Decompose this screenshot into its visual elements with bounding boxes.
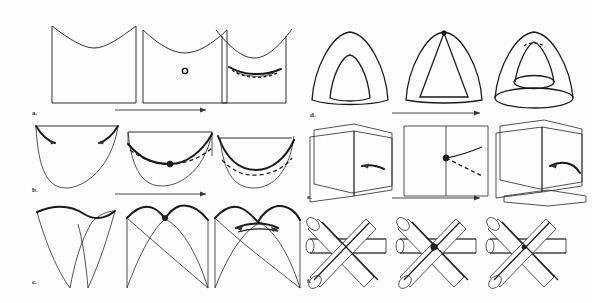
triple-point-node-f3 (522, 245, 526, 249)
panel-f: f. (304, 215, 566, 291)
arrow-b-c (115, 192, 206, 197)
sheet-outline-a1 (52, 26, 136, 103)
front-sheet-left-e3 (496, 127, 542, 198)
inner-base-ellipse-d3 (514, 76, 554, 89)
panel-c-stage-3 (215, 206, 300, 288)
front-sheet-left-e1 (310, 131, 354, 202)
panel-label-d: d. (310, 111, 316, 119)
cross-diagonal-a-c2 (127, 218, 208, 288)
figure-svg: a. (0, 0, 592, 303)
left-cusp-inner-c1 (70, 211, 115, 288)
panel-b-stage-3 (218, 136, 294, 188)
panel-a-stage-2 (143, 30, 227, 103)
panel-b-stage-1 (36, 126, 118, 188)
right-hump-c3 (258, 206, 300, 222)
panel-label-e: e. (307, 193, 312, 201)
apex-node-d2 (442, 31, 446, 35)
horizontal-cylinder-cap-f3 (486, 239, 494, 253)
figure-canvas: a. (0, 0, 592, 303)
panel-c: c. (32, 206, 300, 288)
concave-top-edge-a1 (52, 26, 136, 48)
panel-c-stage-2 (127, 206, 208, 288)
singular-point-marker-a2 (182, 68, 187, 73)
panel-a-stage-1 (52, 26, 136, 103)
left-diagonal-c2 (127, 219, 165, 288)
right-cusp-inner-c1 (78, 224, 88, 288)
panel-label-f: f. (307, 277, 311, 285)
inner-tent-shell-d1 (330, 55, 370, 101)
fold-arc-e3 (550, 163, 580, 173)
lower-sheet-e3 (504, 190, 586, 206)
panel-b: b. (32, 126, 294, 194)
panel-c-stage-1 (37, 207, 115, 288)
panel-f-stage-2 (394, 215, 476, 291)
deep-u-curve-b1 (36, 126, 118, 188)
arrow-head-d-e (474, 111, 480, 116)
panel-d-stage-2 (406, 31, 482, 103)
right-diagonal-c3 (258, 222, 300, 288)
concave-top-edge-a2 (143, 30, 227, 53)
horizontal-cylinder-cap-f1 (306, 239, 314, 253)
panel-a: a. (32, 26, 292, 117)
outer-base-ellipse-d3 (495, 88, 573, 108)
outer-tent-shell-d1 (312, 32, 388, 105)
panel-e: e. (307, 120, 586, 206)
panel-d-stage-3 (495, 32, 573, 108)
back-sheet-e3 (500, 120, 582, 189)
panel-d: d. (310, 31, 573, 119)
panel-label-a: a. (32, 109, 38, 117)
right-diagonal-c2 (165, 219, 208, 288)
upper-branch-e2 (446, 147, 482, 158)
right-hump-c2 (165, 206, 208, 220)
left-branch-b1 (36, 126, 55, 143)
arrow-a-b (115, 108, 206, 113)
panel-label-c: c. (32, 278, 37, 286)
fold-arrow-e1 (362, 164, 369, 169)
wavy-top-c1 (37, 207, 115, 218)
arrow-head-a-b (200, 108, 206, 113)
upper-u-curve-b3 (218, 136, 294, 170)
horizontal-cylinder-cap-f2 (396, 239, 404, 253)
panel-e-stage-1 (310, 124, 392, 202)
dashed-apex-arc-d3 (524, 43, 545, 47)
panel-d-stage-1 (312, 32, 388, 105)
outer-tent-shell-d2 (406, 32, 482, 103)
panel-e-stage-2 (404, 126, 488, 196)
panel-e-stage-3 (496, 120, 586, 206)
panel-b-stage-2 (128, 132, 212, 186)
triple-point-node-f2 (431, 244, 437, 250)
left-hump-c2 (127, 207, 165, 219)
arrow-d-e (392, 111, 480, 116)
deep-u-curve-b3 (220, 136, 294, 188)
lower-branch-e2 (446, 158, 482, 176)
panel-f-stage-3 (484, 215, 566, 291)
left-cusp-edge-c1 (37, 212, 70, 288)
upper-u-curve-b2 (128, 134, 212, 164)
front-sheet-right-e1 (354, 131, 392, 196)
panel-f-stage-1 (304, 215, 386, 291)
arrow-head-b-c (200, 192, 206, 197)
tangency-node-b2 (167, 161, 173, 167)
left-hump-c3 (215, 207, 258, 222)
back-sheet-e1 (314, 124, 392, 193)
panel-label-b: b. (32, 186, 38, 194)
deep-u-curve-b2 (128, 132, 212, 186)
front-sheet-right-e3 (542, 127, 582, 192)
